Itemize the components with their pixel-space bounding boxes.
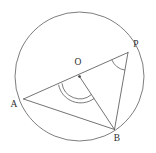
central-angle-arc-outer — [59, 85, 95, 103]
center-point-dot — [78, 75, 81, 78]
point-label-B: B — [114, 133, 120, 143]
point-label-O: O — [75, 57, 82, 67]
chord-p-to-b — [115, 53, 129, 130]
circle-geometry-figure: O A P B — [0, 0, 156, 153]
inscribed-angle-arc — [112, 60, 125, 70]
point-label-P: P — [133, 39, 138, 49]
central-angle-arc-inner — [62, 83, 91, 99]
geometry-canvas: O A P B — [0, 0, 156, 153]
point-label-A: A — [11, 99, 18, 109]
